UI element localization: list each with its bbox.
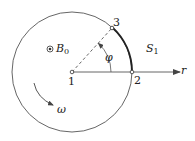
field-symbol: B	[56, 42, 64, 55]
surface-s1-label: S1	[146, 43, 159, 56]
dashed-radius-1-3	[72, 28, 112, 72]
field-out-of-page-icon	[47, 46, 53, 52]
field-b0-label: B0	[56, 43, 69, 56]
point-2-label: 2	[134, 75, 141, 86]
field-subscript: 0	[64, 47, 69, 56]
point-1-marker	[70, 70, 74, 74]
diagram-canvas	[0, 0, 195, 141]
surface-subscript: 1	[154, 47, 159, 56]
angle-phi-label: φ	[105, 52, 113, 63]
rotating-disk-diagram: 1 2 3 B0 S1 φ ω r	[0, 0, 195, 141]
point-3-label: 3	[113, 17, 120, 28]
r-axis-label: r	[181, 65, 186, 76]
omega-label: ω	[57, 104, 66, 115]
point-1-label: 1	[68, 76, 75, 87]
surface-symbol: S	[146, 42, 154, 55]
omega-rotation-arrow	[34, 83, 53, 105]
arc-3-to-2	[112, 27, 132, 72]
